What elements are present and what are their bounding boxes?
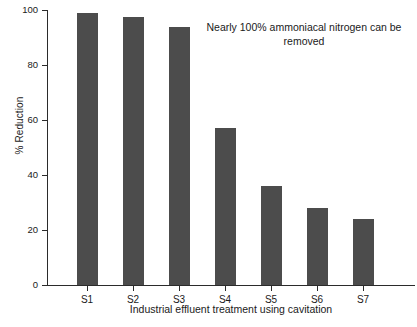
y-tick-label: 60 <box>27 113 38 126</box>
y-tick-label: 100 <box>22 3 38 16</box>
y-tick-label: 80 <box>27 58 38 71</box>
x-tick <box>87 286 88 291</box>
bar <box>261 186 282 285</box>
x-tick <box>363 286 364 291</box>
bar <box>77 13 98 285</box>
bar <box>353 219 374 285</box>
x-axis-title: Industrial effluent treatment using cavi… <box>47 303 415 315</box>
x-axis-line <box>47 285 415 286</box>
y-tick: 60 <box>42 120 47 121</box>
bar-chart: % Reduction 020406080100 S1S2S3S4S5S6S7 … <box>0 0 417 327</box>
x-tick <box>225 286 226 291</box>
x-tick <box>133 286 134 291</box>
x-tick <box>271 286 272 291</box>
y-tick: 100 <box>42 10 47 11</box>
x-tick <box>179 286 180 291</box>
bar <box>215 128 236 285</box>
bar <box>307 208 328 285</box>
y-tick-label: 40 <box>27 168 38 181</box>
bar <box>169 27 190 286</box>
y-tick: 0 <box>42 285 47 286</box>
y-axis-line <box>47 10 48 286</box>
x-tick <box>317 286 318 291</box>
bar <box>123 17 144 285</box>
chart-annotation: Nearly 100% ammoniacal nitrogen can be r… <box>196 20 412 48</box>
y-tick: 80 <box>42 65 47 66</box>
y-tick-label: 0 <box>33 278 38 291</box>
y-axis-title: % Reduction <box>14 71 25 181</box>
y-tick: 20 <box>42 230 47 231</box>
y-tick: 40 <box>42 175 47 176</box>
plot-area: 020406080100 S1S2S3S4S5S6S7 <box>47 10 415 285</box>
y-tick-label: 20 <box>27 223 38 236</box>
